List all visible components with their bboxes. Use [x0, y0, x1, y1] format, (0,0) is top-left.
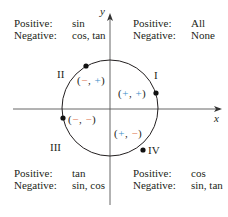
y-axis-label: y [100, 6, 105, 17]
quadrant-iii-signs: (−, −) [68, 114, 96, 125]
quadrant-ii-signs: (−, +) [77, 75, 105, 86]
quadrant-ii-numeral: II [57, 69, 64, 80]
point-quadrant-ii [83, 63, 88, 68]
x-sign: − [81, 74, 88, 86]
x-sign: + [118, 127, 125, 139]
quadrant-iv-info: Positive:cos Negative:sin, tan [133, 167, 223, 191]
positive-label: Positive: [14, 17, 72, 29]
quadrant-i-signs: (+, +) [118, 88, 146, 99]
positive-functions: sin [72, 17, 85, 29]
positive-functions: All [191, 17, 205, 29]
x-sign: + [122, 87, 129, 99]
point-quadrant-iii [60, 115, 65, 120]
quadrant-iii-info: Positive:tan Negative:sin, cos [14, 167, 105, 191]
positive-functions: cos [191, 167, 206, 179]
quadrant-iv-numeral: IV [148, 145, 160, 156]
negative-label: Negative: [133, 179, 191, 191]
negative-functions: cos, tan [72, 29, 106, 41]
negative-label: Negative: [133, 29, 191, 41]
positive-functions: tan [72, 167, 85, 179]
x-sign: − [72, 113, 79, 125]
negative-functions: sin, cos [72, 179, 105, 191]
positive-label: Positive: [14, 167, 72, 179]
positive-label: Positive: [133, 167, 191, 179]
negative-functions: None [191, 29, 215, 41]
quadrant-ii-info: Positive:sin Negative:cos, tan [14, 17, 106, 41]
negative-label: Negative: [14, 179, 72, 191]
quadrant-iii-numeral: III [50, 142, 61, 153]
negative-functions: sin, tan [191, 179, 223, 191]
positive-label: Positive: [133, 17, 191, 29]
point-quadrant-i [153, 90, 158, 95]
quadrant-i-numeral: I [154, 70, 158, 81]
negative-label: Negative: [14, 29, 72, 41]
unit-circle-quadrant-signs-diagram: y x Positive:sin Negative:cos, tan Posit… [0, 0, 228, 217]
x-axis-label: x [214, 113, 219, 124]
point-quadrant-iv [140, 147, 145, 152]
quadrant-i-info: Positive:All Negative:None [133, 17, 215, 41]
quadrant-iv-signs: (+, −) [114, 128, 142, 139]
